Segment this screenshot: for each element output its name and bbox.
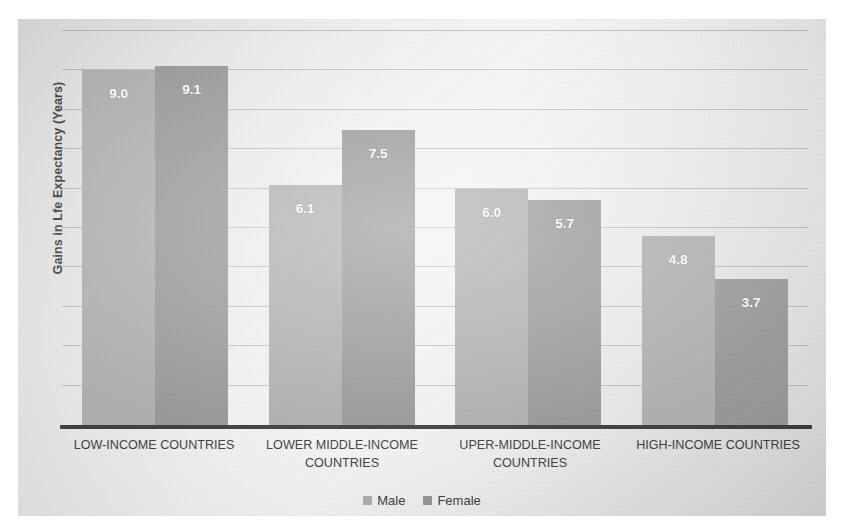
category-label: LOWER MIDDLE-INCOME COUNTRIES (248, 436, 436, 473)
category-label: HIGH-INCOME COUNTRIES (624, 436, 812, 473)
bar-group: 9.09.1 (62, 31, 249, 425)
bar-male[interactable]: 9.0 (82, 70, 155, 425)
bar-group: 4.83.7 (622, 31, 809, 425)
legend-label: Male (377, 493, 405, 508)
bar-male[interactable]: 6.1 (269, 185, 342, 425)
bar-value-label: 9.0 (82, 86, 155, 101)
bar-value-label: 9.1 (155, 82, 228, 97)
legend-item-female[interactable]: Female (423, 493, 480, 508)
legend-item-male[interactable]: Male (363, 493, 405, 508)
bar-male[interactable]: 6.0 (455, 189, 528, 425)
legend-swatch-icon (423, 496, 432, 505)
bar-value-label: 5.7 (528, 216, 601, 231)
bar-female[interactable]: 5.7 (528, 200, 601, 425)
x-axis-category-labels: LOW-INCOME COUNTRIESLOWER MIDDLE-INCOME … (60, 436, 812, 473)
bar-group: 6.05.7 (435, 31, 622, 425)
legend-label: Female (437, 493, 480, 508)
bar-male[interactable]: 4.8 (642, 236, 715, 425)
bar-value-label: 6.0 (455, 205, 528, 220)
chart-screenshot: Gains in Lfe Expectancy (Years) 9.09.16.… (0, 0, 842, 532)
bar-value-label: 6.1 (269, 201, 342, 216)
bar-value-label: 4.8 (642, 252, 715, 267)
bar-groups: 9.09.16.17.56.05.74.83.7 (62, 31, 808, 425)
chart-canvas: Gains in Lfe Expectancy (Years) 9.09.16.… (18, 19, 826, 516)
bar-female[interactable]: 9.1 (155, 66, 228, 425)
chart-legend: MaleFemale (18, 493, 826, 508)
bar-group: 6.17.5 (249, 31, 436, 425)
category-label: LOW-INCOME COUNTRIES (60, 436, 248, 473)
plot-area: 9.09.16.17.56.05.74.83.7 (62, 31, 808, 425)
bar-female[interactable]: 3.7 (715, 279, 788, 425)
bar-value-label: 7.5 (342, 146, 415, 161)
bar-female[interactable]: 7.5 (342, 130, 415, 426)
x-axis-baseline (60, 425, 812, 429)
bar-value-label: 3.7 (715, 295, 788, 310)
category-label: UPER-MIDDLE-INCOME COUNTRIES (436, 436, 624, 473)
legend-swatch-icon (363, 496, 372, 505)
